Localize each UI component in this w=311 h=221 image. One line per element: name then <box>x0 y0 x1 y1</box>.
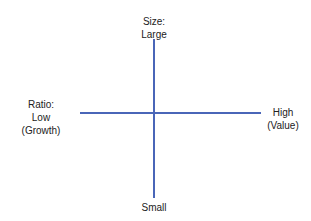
size-axis-title: Size: <box>124 15 184 28</box>
size-small-text: Small <box>124 201 184 214</box>
ratio-high-text: High <box>252 106 311 119</box>
vertical-axis-size <box>153 39 155 198</box>
horizontal-axis-ratio <box>80 112 261 114</box>
size-large-label: Size: Large <box>124 15 184 41</box>
ratio-high-label: High (Value) <box>252 106 311 132</box>
ratio-value-text: (Value) <box>252 119 311 132</box>
ratio-growth-text: (Growth) <box>6 124 76 137</box>
size-small-label: Small <box>124 201 184 214</box>
ratio-axis-title: Ratio: <box>6 98 76 111</box>
size-large-text: Large <box>124 28 184 41</box>
ratio-low-label: Ratio: Low (Growth) <box>6 98 76 137</box>
ratio-low-text: Low <box>6 111 76 124</box>
